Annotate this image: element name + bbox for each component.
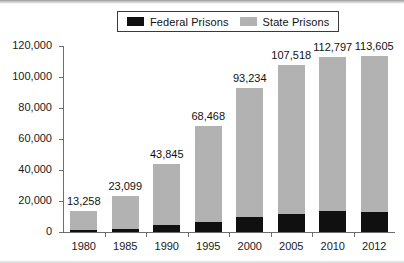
chart-legend: Federal Prisons State Prisons (117, 11, 339, 32)
bar-segment-state (112, 196, 139, 229)
x-axis-tick (271, 233, 272, 237)
bar-stack (112, 196, 139, 232)
bar-total-label: 112,797 (313, 41, 352, 53)
x-axis-tick (105, 233, 106, 237)
legend-swatch-state-icon (240, 17, 257, 26)
bar-group[interactable]: 107,5182005 (278, 45, 305, 232)
bar-group[interactable]: 43,8451990 (153, 45, 180, 232)
bar-total-label: 13,258 (67, 195, 101, 207)
legend-entry-state: State Prisons (240, 16, 330, 28)
bar-segment-state (319, 57, 346, 210)
bar-total-label: 43,845 (150, 148, 184, 160)
bar-total-label: 113,605 (355, 40, 394, 52)
legend-swatch-federal-icon (127, 17, 144, 26)
bar-stack (70, 211, 97, 232)
bar-group[interactable]: 113,6052012 (361, 45, 388, 232)
x-axis-tick-label: 2005 (279, 240, 303, 252)
bar-segment-state (236, 88, 263, 218)
bar-segment-state (195, 126, 222, 222)
plot-area: 020,00040,00060,00080,000100,000120,000 … (63, 46, 395, 233)
bar-segment-federal (70, 230, 97, 232)
bar-segment-state (278, 65, 305, 214)
bar-stack (236, 88, 263, 233)
bar-segment-federal (153, 225, 180, 232)
bar-stack (195, 126, 222, 232)
y-axis-tick: 0 (59, 232, 63, 233)
bar-segment-federal (112, 229, 139, 232)
bar-segment-federal (195, 222, 222, 232)
chart-figure: Federal Prisons State Prisons 020,00040,… (0, 0, 404, 263)
bar-stack (278, 65, 305, 232)
bar-stack (361, 56, 388, 232)
scan-artifact-top (0, 0, 404, 4)
y-axis-tick-label: 60,000 (18, 132, 52, 144)
bar-segment-state (361, 56, 388, 212)
legend-label-federal: Federal Prisons (150, 16, 229, 28)
x-axis-tick-label: 2010 (321, 240, 345, 252)
x-axis-tick-label: 1995 (196, 240, 220, 252)
legend-entry-federal: Federal Prisons (127, 16, 229, 28)
bar-stack (319, 57, 346, 232)
bar-group[interactable]: 112,7972010 (319, 45, 346, 232)
bar-group[interactable]: 23,0991985 (112, 45, 139, 232)
y-axis-tick-label: 0 (46, 225, 52, 237)
x-axis-tick-label: 2000 (238, 240, 262, 252)
bar-segment-federal (278, 214, 305, 232)
bar-series-container: 13,258198023,099198543,845199068,4681995… (63, 46, 395, 232)
y-axis-tick-label: 120,000 (12, 39, 52, 51)
x-axis-tick (229, 233, 230, 237)
x-axis-tick (312, 233, 313, 237)
bar-group[interactable]: 93,2342000 (236, 45, 263, 232)
bar-segment-federal (361, 212, 388, 232)
bar-group[interactable]: 13,2581980 (70, 45, 97, 232)
x-axis-tick (354, 233, 355, 237)
y-axis-tick-label: 100,000 (12, 70, 52, 82)
y-axis-tick-label: 40,000 (18, 163, 52, 175)
legend-label-state: State Prisons (263, 16, 330, 28)
x-axis-tick (188, 233, 189, 237)
bar-group[interactable]: 68,4681995 (195, 45, 222, 232)
bar-total-label: 107,518 (271, 49, 311, 61)
bar-segment-federal (236, 217, 263, 232)
bar-stack (153, 164, 180, 232)
bar-segment-federal (319, 211, 346, 232)
x-axis-tick-label: 1990 (155, 240, 179, 252)
bar-total-label: 93,234 (233, 72, 267, 84)
x-axis-tick-label: 2012 (362, 240, 386, 252)
bar-segment-state (153, 164, 180, 225)
bar-segment-state (70, 211, 97, 229)
y-axis-tick-label: 80,000 (18, 101, 52, 113)
x-axis-tick (146, 233, 147, 237)
y-axis-tick-label: 20,000 (18, 194, 52, 206)
x-axis-tick-label: 1980 (72, 240, 96, 252)
bar-total-label: 23,099 (108, 180, 142, 192)
x-axis-tick-label: 1985 (113, 240, 137, 252)
bar-total-label: 68,468 (191, 110, 225, 122)
